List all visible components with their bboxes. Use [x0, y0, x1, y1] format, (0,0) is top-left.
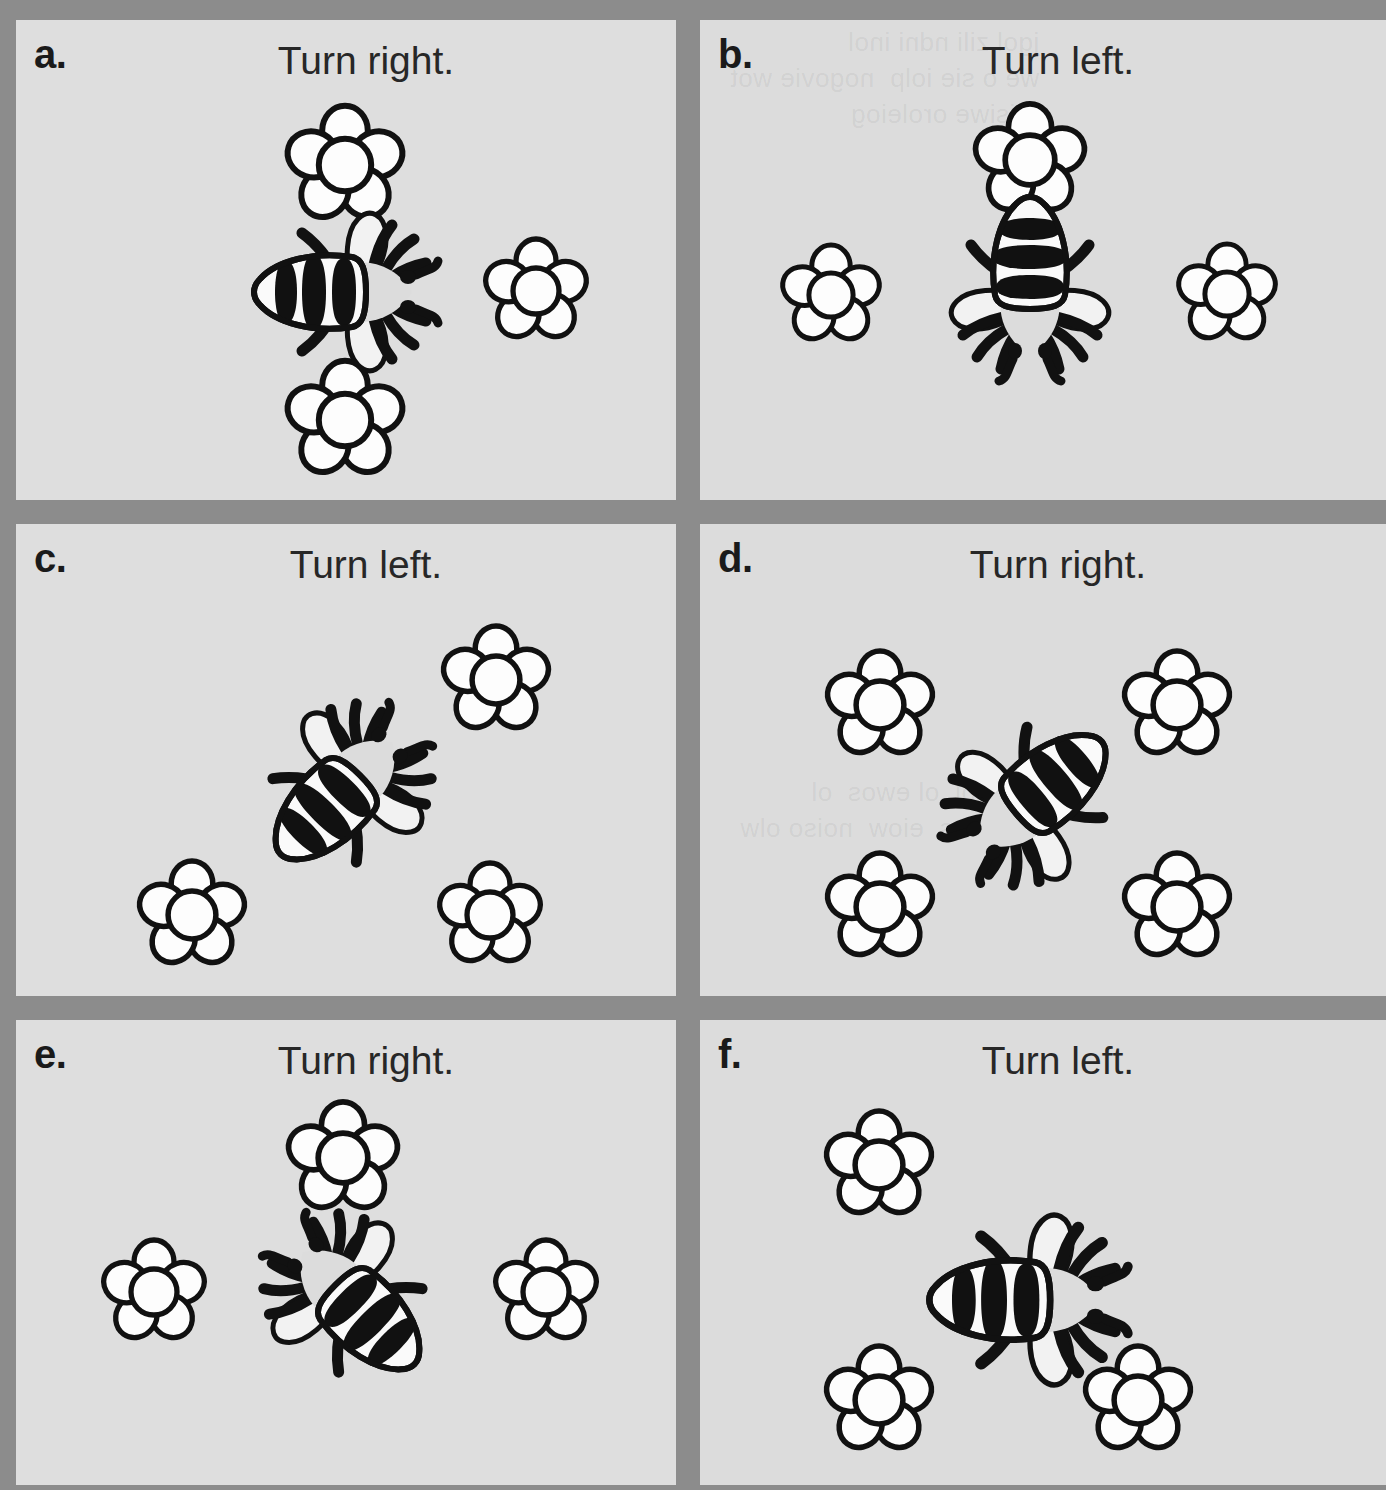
panel-instruction-c: Turn left.: [16, 544, 676, 587]
flower-icon: [1179, 246, 1275, 342]
flower-icon: [783, 247, 879, 343]
bee-icon: [240, 203, 450, 381]
flower-icon: [440, 865, 540, 965]
worksheet-grid: a.Turn right.: [0, 0, 1386, 1490]
flower-icon: [827, 1113, 931, 1217]
flower-icon: [828, 855, 932, 959]
flower-icon: [140, 863, 244, 967]
flower-icon: [486, 241, 586, 341]
exercise-panel-b: jgol zili ndni inol we o sie iolp nogovi…: [700, 20, 1386, 500]
exercise-panel-f: f.Turn left.: [700, 1020, 1386, 1485]
exercise-panel-a: a.Turn right.: [16, 20, 676, 500]
exercise-panel-d: nowol ol ewos ol wol ros eiow noiso olwd…: [700, 524, 1386, 996]
flower-icon: [1125, 653, 1229, 757]
exercise-panel-e: e.Turn right.: [16, 1020, 676, 1485]
flower-icon: [828, 653, 932, 757]
bee-icon: [941, 183, 1119, 393]
exercise-panel-c: c.Turn left.: [16, 524, 676, 996]
flower-icon: [496, 1242, 596, 1342]
panel-instruction-f: Turn left.: [700, 1040, 1386, 1083]
flower-icon: [444, 628, 548, 732]
panel-instruction-d: Turn right.: [700, 544, 1386, 587]
panel-instruction-e: Turn right.: [16, 1040, 676, 1083]
bee-icon: [213, 1163, 487, 1437]
flower-icon: [1125, 855, 1229, 959]
flower-icon: [104, 1242, 204, 1342]
panel-instruction-b: Turn left.: [700, 40, 1386, 83]
panel-instruction-a: Turn right.: [16, 40, 676, 83]
bee-icon: [914, 1204, 1141, 1396]
